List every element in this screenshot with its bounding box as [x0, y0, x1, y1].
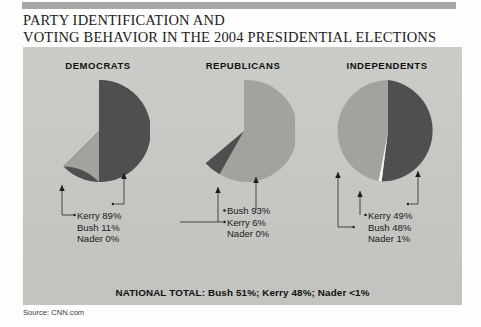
pie-group-republicans: REPUBLICANS Bush 93% Kerry 6% Nader 0% — [168, 47, 318, 247]
pie-group-independents: INDEPENDENTS — [312, 47, 462, 247]
title-line-2: VOTING BEHAVIOR IN THE 2004 PRESIDENTIAL… — [23, 29, 463, 46]
label-block-democrats: Kerry 89% Bush 11% Nader 0% — [77, 210, 121, 245]
title-line-1: PARTY IDENTIFICATION AND — [23, 12, 463, 29]
top-divider-rule — [22, 2, 456, 9]
label-independents-bush: Bush 48% — [368, 222, 412, 234]
source-note: Source: CNN.com — [23, 308, 84, 317]
label-block-independents: Kerry 49% Bush 48% Nader 1% — [368, 210, 412, 245]
figure-title: PARTY IDENTIFICATION AND VOTING BEHAVIOR… — [23, 12, 463, 46]
label-democrats-nader: Nader 0% — [77, 233, 121, 245]
chart-panel: DEMOCRATS Kerry 89% Bush 11% — [23, 47, 462, 305]
infographic-figure: PARTY IDENTIFICATION AND VOTING BEHAVIOR… — [0, 0, 481, 327]
national-total-text: NATIONAL TOTAL: Bush 51%; Kerry 48%; Nad… — [23, 287, 462, 298]
label-block-republicans: Bush 93% Kerry 6% Nader 0% — [227, 205, 270, 240]
label-independents-kerry: Kerry 49% — [368, 210, 412, 222]
label-republicans-nader: Nader 0% — [227, 228, 270, 240]
label-independents-nader: Nader 1% — [368, 233, 412, 245]
label-democrats-kerry: Kerry 89% — [77, 210, 121, 222]
label-republicans-kerry: Kerry 6% — [227, 217, 270, 229]
pie-group-democrats: DEMOCRATS Kerry 89% Bush 11% — [23, 47, 173, 247]
label-republicans-bush: Bush 93% — [227, 205, 270, 217]
label-democrats-bush: Bush 11% — [77, 222, 121, 234]
